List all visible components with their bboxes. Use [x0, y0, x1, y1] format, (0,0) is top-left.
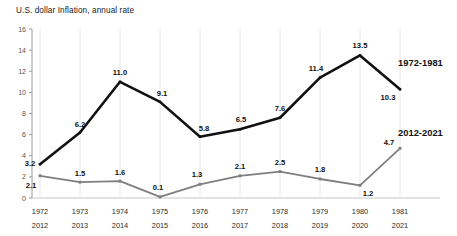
data-point-marker: [399, 147, 402, 150]
y-tick-label: 8: [22, 110, 26, 117]
data-label: 2.1: [235, 162, 246, 171]
data-point-marker: [359, 184, 362, 187]
series-annotations: 1972-19812012-2021: [398, 57, 443, 138]
data-label: 6.5: [236, 115, 247, 124]
data-point-marker: [159, 196, 162, 199]
series-line-2012-2021: [40, 148, 400, 197]
data-label: 6.2: [75, 120, 86, 129]
y-tick-label: 10: [18, 89, 26, 96]
data-label: 1.5: [75, 169, 86, 178]
series-annotation-1972-1981: 1972-1981: [398, 57, 443, 68]
x-axis-ticks: 1972201219732013197420141975201519762016…: [32, 207, 408, 230]
data-point-marker: [319, 178, 322, 181]
x-tick-label-primary: 1979: [312, 207, 328, 216]
data-point-marker: [39, 163, 41, 165]
y-tick-label: 6: [22, 131, 26, 138]
data-label: 2.1: [26, 181, 37, 190]
axis-group: [32, 29, 440, 198]
data-point-marker: [159, 101, 161, 103]
data-label: 10.3: [381, 93, 396, 102]
x-tick-label-primary: 1978: [272, 207, 288, 216]
data-point-marker: [279, 170, 282, 173]
y-axis-ticks: 0246810121416: [18, 26, 32, 202]
data-point-marker: [119, 81, 121, 83]
x-tick-label-primary: 1973: [72, 207, 88, 216]
y-tick-label: 0: [22, 195, 26, 202]
x-tick-label-primary: 1977: [232, 207, 248, 216]
data-point-marker: [399, 88, 401, 90]
data-point-marker: [359, 54, 361, 56]
data-label: 1.8: [315, 165, 326, 174]
data-point-marker: [199, 136, 201, 138]
data-label: 4.7: [384, 138, 395, 147]
x-tick-label-secondary: 2014: [112, 221, 128, 230]
data-point-marker: [39, 174, 42, 177]
data-point-marker: [119, 180, 122, 183]
x-tick-label-secondary: 2019: [312, 221, 328, 230]
x-tick-label-secondary: 2017: [232, 221, 248, 230]
data-label: 0.1: [153, 183, 164, 192]
data-point-marker: [239, 128, 241, 130]
x-tick-label-primary: 1974: [112, 207, 128, 216]
data-point-marker: [79, 181, 82, 184]
series-annotation-2012-2021: 2012-2021: [398, 127, 443, 138]
x-tick-label-secondary: 2020: [352, 221, 368, 230]
data-label: 9.1: [157, 89, 168, 98]
x-tick-label-secondary: 2012: [32, 221, 48, 230]
x-tick-label-primary: 1972: [32, 207, 48, 216]
data-point-marker: [199, 183, 202, 186]
data-label: 11.0: [113, 68, 127, 77]
x-tick-label-secondary: 2013: [72, 221, 88, 230]
data-label: 5.8: [199, 124, 210, 133]
data-label: 7.6: [275, 104, 286, 113]
x-tick-label-primary: 1976: [192, 207, 208, 216]
y-tick-label: 16: [18, 26, 26, 33]
data-label: 1.6: [115, 168, 126, 177]
x-tick-label-secondary: 2016: [192, 221, 208, 230]
y-tick-label: 14: [18, 47, 26, 54]
x-tick-label-primary: 1975: [152, 207, 168, 216]
data-label: 3.2: [25, 159, 36, 168]
inflation-line-chart: U.S. dollar Inflation, annual rate 02468…: [0, 0, 457, 236]
x-tick-label-secondary: 2021: [392, 221, 408, 230]
data-label: 2.5: [275, 158, 286, 167]
data-label: 1.3: [192, 170, 203, 179]
data-label: 13.5: [353, 41, 369, 50]
series-group: [39, 54, 402, 198]
x-tick-label-secondary: 2015: [152, 221, 168, 230]
data-point-marker: [279, 117, 281, 119]
data-label: 11.4: [309, 64, 324, 73]
x-tick-label-primary: 1981: [392, 207, 408, 216]
data-point-marker: [239, 174, 242, 177]
data-point-marker: [79, 131, 81, 133]
data-label: 1.2: [363, 189, 374, 198]
y-tick-label: 12: [18, 68, 26, 75]
x-tick-label-secondary: 2018: [272, 221, 288, 230]
data-point-marker: [319, 76, 321, 78]
series-line-1972-1981: [40, 55, 400, 164]
chart-plot-area: 0246810121416 3.26.211.09.15.86.57.611.4…: [0, 0, 457, 236]
x-tick-label-primary: 1980: [352, 207, 368, 216]
y-tick-label: 2: [22, 173, 26, 180]
